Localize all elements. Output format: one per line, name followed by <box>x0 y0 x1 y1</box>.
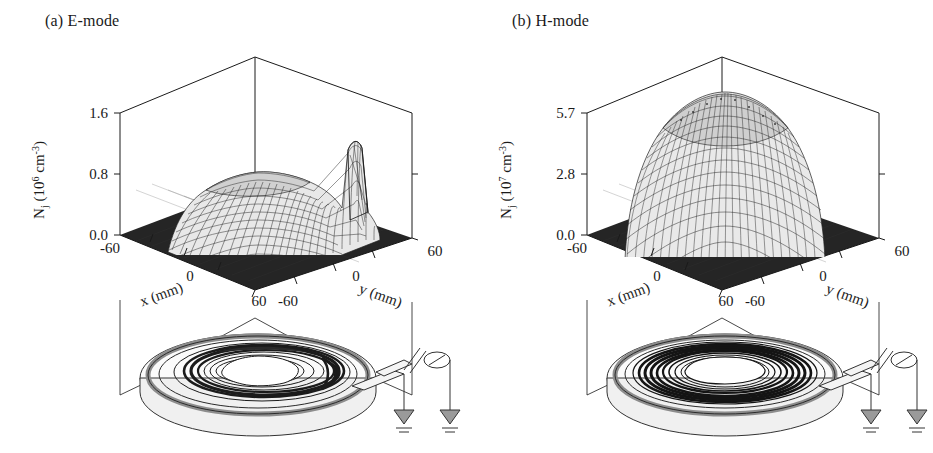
svg-text:x (mm): x (mm) <box>138 279 186 310</box>
z-tick-a-2: 0.8 <box>89 166 108 182</box>
x-tick-a-mid: 0 <box>186 268 194 284</box>
svg-text:y (mm): y (mm) <box>824 280 872 311</box>
y-tick-a-max: 60 <box>428 243 443 259</box>
svg-text:Nj (107 cm-3): Nj (107 cm-3) <box>497 141 517 219</box>
z-label-open-a: (10 <box>31 182 48 206</box>
reactor-schematic-a <box>120 300 460 436</box>
z-axis-label-a: Nj (106 cm-3) <box>30 141 50 219</box>
y-axis-label-a: y (mm) <box>357 280 405 311</box>
z-label-mid-a: cm <box>31 154 47 176</box>
y-tick-a-mid: 0 <box>352 268 360 284</box>
y-tick-b-min: -60 <box>745 293 765 309</box>
z-label-close-b: ) <box>498 141 515 146</box>
z-label-exp2-a: -3 <box>30 146 41 154</box>
z-label-open-b: (10 <box>498 182 515 206</box>
ground-symbol-right-b <box>907 410 927 432</box>
x-tick-b-mid: 0 <box>653 268 661 284</box>
ground-symbol-left-b <box>861 410 881 432</box>
x-tick-a-max: 60 <box>252 293 267 309</box>
reactor-schematic-b <box>587 300 927 436</box>
x-axis-label-a: x (mm) <box>138 279 186 310</box>
z-axis-label-b: Nj (107 cm-3) <box>497 141 517 219</box>
z-label-mid-b: cm <box>498 154 514 176</box>
z-label-symbol-b: N <box>498 208 514 219</box>
panel-a-graphic: 1.6 0.8 0.0 Nj (106 cm-3) -60 0 60 x (mm… <box>0 0 466 453</box>
z-tick-b-1: 5.7 <box>556 105 575 121</box>
z-tick-b-2: 2.8 <box>556 166 575 182</box>
y-tick-a-min: -60 <box>278 293 298 309</box>
z-label-exp2-b: -3 <box>497 146 508 154</box>
panel-b-graphic: 5.7 2.8 0.0 Nj (107 cm-3) -60 0 60 x (mm… <box>467 0 933 453</box>
z-tick-a-1: 1.6 <box>89 105 108 121</box>
z-label-symbol-a: N <box>31 208 47 219</box>
panel-h-mode: (b) H-mode <box>467 0 933 453</box>
svg-text:x (mm): x (mm) <box>605 279 653 310</box>
svg-text:y (mm): y (mm) <box>357 280 405 311</box>
y-axis-label-b: y (mm) <box>824 280 872 311</box>
x-tick-b-max: 60 <box>719 293 734 309</box>
svg-text:Nj (106 cm-3): Nj (106 cm-3) <box>30 141 50 219</box>
x-tick-a-min: -60 <box>100 240 120 256</box>
x-axis-label-b: x (mm) <box>605 279 653 310</box>
ground-symbol-right-a <box>440 410 460 432</box>
panel-e-mode: (a) E-mode <box>0 0 466 453</box>
z-label-close-a: ) <box>31 141 48 146</box>
ground-symbol-left-a <box>394 410 414 432</box>
z-axis-ticks-a <box>114 113 120 235</box>
y-tick-b-mid: 0 <box>819 268 827 284</box>
z-axis-ticks-b <box>581 113 587 235</box>
x-tick-b-min: -60 <box>567 240 587 256</box>
y-tick-b-max: 60 <box>895 243 910 259</box>
